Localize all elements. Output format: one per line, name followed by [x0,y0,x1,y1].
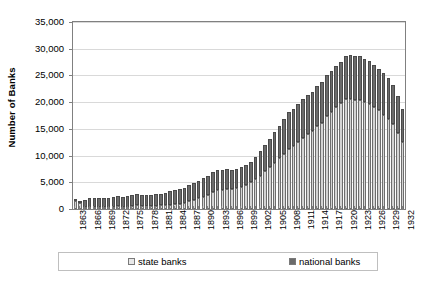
bar-segment-state-banks [368,104,372,209]
x-axis-tick-label: 1896 [235,210,245,230]
x-axis-tick-mark [264,206,265,210]
x-axis-tick-mark [240,206,241,210]
x-axis-tick-mark [79,206,80,210]
x-axis-tick-label: 1911 [306,210,316,229]
bar-segment-national-banks [382,73,386,114]
bar-group [387,78,391,209]
bar-segment-state-banks [387,119,391,209]
x-axis-tick-mark [316,206,317,210]
bar-segment-national-banks [249,162,253,182]
bar-segment-national-banks [145,195,149,206]
x-axis-tick-mark [288,206,289,210]
x-axis-tick-label: 1917 [334,210,344,230]
x-axis-tick-label: 1875 [135,210,145,230]
y-axis-tick-label: 5,000 [40,176,64,187]
bar-segment-national-banks [206,176,210,196]
bar-segment-state-banks [306,134,310,209]
legend-label-national-banks: national banks [299,256,360,267]
bar-segment-national-banks [353,56,357,100]
bar-group [278,126,282,209]
x-axis-tick-label: 1929 [391,210,401,230]
bar-group [296,104,300,209]
bar-segment-national-banks [178,189,182,204]
bar-group [372,65,376,209]
bar-segment-state-banks [273,163,277,209]
x-axis-tick-mark [387,206,388,210]
bar-group [273,132,277,209]
bar-segment-state-banks [377,110,381,209]
x-axis-tick-mark [183,206,184,210]
bar-segment-national-banks [187,185,191,201]
x-axis-tick-mark [278,206,279,210]
bar-segment-national-banks [344,56,348,99]
bar-segment-state-banks [363,102,367,209]
x-axis-tick-mark [226,206,227,210]
bar-group [230,170,234,210]
x-axis-tick-mark [74,206,75,210]
bar-group [263,145,267,209]
x-axis-tick-mark [212,206,213,210]
bar-segment-state-banks [292,146,296,209]
x-axis-tick-label: 1893 [221,210,231,230]
bar-segment-state-banks [344,99,348,209]
x-axis-tick-mark [326,206,327,210]
bar-segment-state-banks [301,138,305,210]
x-axis-tick-mark [108,206,109,210]
bar-group [211,172,215,209]
x-axis-tick-mark [164,206,165,210]
x-axis-tick-mark [146,206,147,210]
x-axis-tick-mark [373,206,374,210]
legend-swatch-state-banks [128,258,135,265]
bar-segment-national-banks [315,86,319,126]
bar-group [206,176,210,209]
bar-segment-state-banks [401,142,405,209]
bar-group [268,139,272,209]
x-axis-tick-mark [397,206,398,210]
bar-group [225,169,229,209]
x-axis-tick-mark [236,206,237,210]
bar-segment-state-banks [249,182,253,209]
bar-segment-national-banks [183,188,187,203]
x-axis-tick-mark [112,206,113,210]
bar-segment-national-banks [254,157,258,179]
bar-segment-national-banks [235,169,239,188]
bar-segment-national-banks [287,112,291,148]
bar-segment-national-banks [278,126,282,158]
x-axis-tick-mark [250,206,251,210]
x-axis-tick-mark [84,206,85,210]
x-axis-tick-label: 1932 [406,210,416,230]
x-axis-tick-label: 1881 [164,210,174,230]
x-axis-tick-mark [321,206,322,210]
bar-segment-national-banks [216,170,220,190]
bar-group [216,170,220,209]
bar-segment-national-banks [349,55,353,99]
bar-segment-national-banks [311,92,315,132]
bar-segment-national-banks [334,66,338,107]
x-axis-tick-mark [368,206,369,210]
bar-segment-national-banks [296,104,300,142]
x-axis-tick-mark [283,206,284,210]
bar-segment-national-banks [240,167,244,186]
bar-segment-national-banks [259,151,263,175]
x-axis-tick-mark [364,206,365,210]
bar-segment-national-banks [116,196,120,206]
bar-segment-national-banks [173,190,177,204]
x-axis-tick-mark [150,206,151,210]
bar-segment-national-banks [325,75,329,115]
legend-swatch-national-banks [289,258,296,265]
bar-segment-national-banks [159,194,163,205]
x-axis-tick-label: 1902 [263,210,273,230]
bar-segment-national-banks [368,61,372,104]
bar-segment-national-banks [164,193,168,205]
x-axis-tick-label: 1869 [107,210,117,230]
x-axis-tick-mark [169,206,170,210]
bar-segment-state-banks [334,107,338,209]
bar-segment-national-banks [339,62,343,104]
bar-series-container [73,22,405,209]
x-axis-tick-mark [312,206,313,210]
bar-group [344,56,348,209]
bar-group [259,151,263,209]
x-axis-tick-mark [103,206,104,210]
bar-segment-national-banks [197,181,201,198]
x-axis-tick-mark [302,206,303,210]
